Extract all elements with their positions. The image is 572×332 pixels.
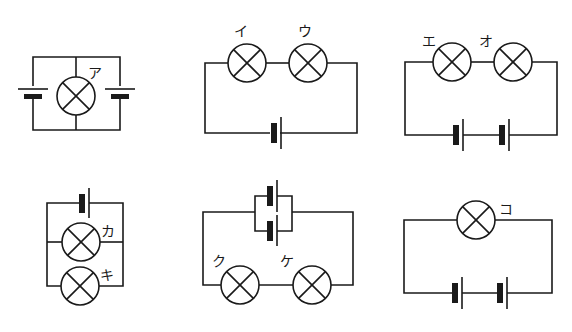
battery-icon	[79, 188, 89, 218]
bulb-label-ku: ク	[212, 253, 226, 269]
bulb-icon	[494, 43, 532, 81]
bulb-label-ka: カ	[101, 223, 115, 239]
circuit-1: ア	[18, 57, 135, 130]
bulb-label-ke: ケ	[280, 253, 294, 269]
bulb-icon	[62, 223, 100, 261]
battery-icon	[452, 277, 462, 309]
circuit-6: コ	[404, 201, 552, 309]
wire	[495, 220, 552, 293]
bulb-label-ko: コ	[499, 201, 513, 217]
wire	[404, 220, 457, 293]
bulb-icon	[57, 77, 95, 115]
wire	[255, 196, 267, 231]
bulb-icon	[221, 266, 259, 304]
battery-icon	[18, 89, 48, 99]
bulb-icon	[433, 43, 471, 81]
circuit-4: カ キ	[47, 188, 123, 305]
bulb-label-u: ウ	[298, 23, 312, 39]
bulb-label-e: エ	[422, 33, 436, 49]
battery-icon	[105, 89, 135, 99]
bulb-label-i: イ	[234, 23, 248, 39]
bulb-icon	[457, 201, 495, 239]
bulb-label-a: ア	[88, 65, 102, 81]
bulb-icon	[293, 266, 331, 304]
battery-icon	[499, 119, 509, 151]
circuit-3: エ オ	[405, 33, 557, 151]
circuit-5: ク ケ	[203, 180, 353, 304]
battery-icon	[453, 119, 463, 151]
circuit-2: イ ウ	[205, 23, 357, 149]
bulb-icon	[289, 44, 327, 82]
battery-icon	[271, 117, 281, 149]
bulb-icon	[61, 267, 99, 305]
battery-icon	[497, 277, 507, 309]
bulb-icon	[228, 44, 266, 82]
battery-icon	[267, 180, 277, 212]
wire	[277, 196, 292, 231]
circuit-diagrams: ア イ ウ	[0, 0, 572, 332]
bulb-label-ki: キ	[100, 267, 114, 283]
battery-icon	[267, 215, 277, 246]
bulb-label-o: オ	[479, 33, 493, 49]
